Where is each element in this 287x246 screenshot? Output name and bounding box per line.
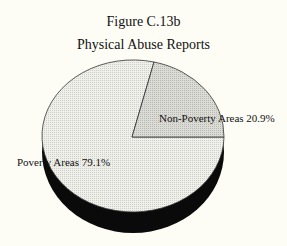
label-poverty: Poverty Areas 79.1%	[17, 156, 110, 168]
label-non-poverty: Non-Poverty Areas 20.9%	[159, 112, 275, 124]
